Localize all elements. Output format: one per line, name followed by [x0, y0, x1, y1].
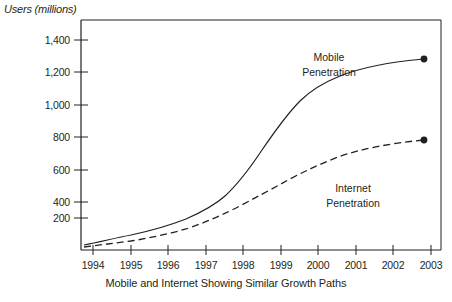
- y-axis-tick-labels: 1,400 1,200 1,000 800 600 400 200: [45, 34, 71, 224]
- x-tick-label-2002: 2002: [382, 259, 405, 271]
- x-tick-label-1995: 1995: [120, 259, 143, 271]
- series-annotation-mobile-line2: Penetration: [302, 66, 356, 78]
- series-annotation-mobile: Mobile Penetration: [302, 51, 356, 78]
- y-tick-label-200: 200: [53, 212, 70, 224]
- x-tick-label-2001: 2001: [345, 259, 368, 271]
- chart-caption: Mobile and Internet Showing Similar Grow…: [0, 277, 452, 289]
- line-chart-canvas: 1,400 1,200 1,000 800 600 400 200 1994 1…: [0, 0, 452, 302]
- series-endpoint-marker-mobile: [421, 56, 428, 63]
- x-tick-label-2000: 2000: [307, 259, 330, 271]
- chart-figure: Users (millions) 1,400 1,200 1,000 800 6…: [0, 0, 452, 302]
- series-annotation-internet: Internet Penetration: [326, 182, 380, 209]
- y-tick-label-1400: 1,400: [45, 34, 71, 46]
- y-tick-label-1200: 1,200: [45, 66, 71, 78]
- plot-frame-border: [81, 20, 441, 250]
- y-tick-label-400: 400: [53, 196, 70, 208]
- series-annotation-internet-line1: Internet: [335, 182, 371, 194]
- series-endpoint-marker-internet: [421, 137, 428, 144]
- series-annotation-mobile-line1: Mobile: [314, 51, 345, 63]
- x-axis-tick-labels: 1994 1995 1996 1997 1998 1999 2000 2001 …: [82, 259, 443, 271]
- x-tick-label-1994: 1994: [82, 259, 105, 271]
- x-tick-label-1997: 1997: [195, 259, 218, 271]
- x-tick-label-2003: 2003: [420, 259, 443, 271]
- y-tick-label-600: 600: [53, 164, 70, 176]
- y-tick-label-1000: 1,000: [45, 99, 71, 111]
- x-tick-label-1999: 1999: [270, 259, 293, 271]
- series-annotation-internet-line2: Penetration: [326, 197, 380, 209]
- series-line-mobile-penetration: [84, 59, 424, 245]
- series-line-internet-penetration: [84, 140, 424, 247]
- x-tick-label-1998: 1998: [232, 259, 255, 271]
- y-tick-label-800: 800: [53, 131, 70, 143]
- x-tick-label-1996: 1996: [157, 259, 180, 271]
